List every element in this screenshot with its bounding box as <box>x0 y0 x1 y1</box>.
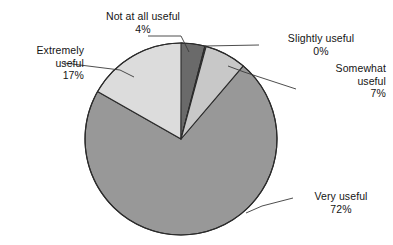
callout-not-at-all-useful: Not at all useful 4% <box>88 10 198 35</box>
callout-label-somewhat-useful-line1: Somewhat <box>300 62 386 75</box>
callout-label-not-at-all-useful: Not at all useful <box>88 10 198 23</box>
callout-very-useful: Very useful 72% <box>296 190 386 215</box>
leader-line-slightly-useful <box>205 45 259 48</box>
callout-label-extremely-useful-line2: useful <box>4 57 84 70</box>
callout-somewhat-useful: Somewhat useful 7% <box>300 62 386 100</box>
callout-percent-extremely-useful: 17% <box>4 69 84 82</box>
callout-percent-very-useful: 72% <box>296 203 386 216</box>
callout-slightly-useful: Slightly useful 0% <box>262 32 380 57</box>
callout-label-somewhat-useful-line2: useful <box>300 75 386 88</box>
callout-extremely-useful: Extremely useful 17% <box>4 44 84 82</box>
callout-percent-not-at-all-useful: 4% <box>88 23 198 36</box>
callout-label-slightly-useful: Slightly useful <box>262 32 380 45</box>
callout-percent-somewhat-useful: 7% <box>300 87 386 100</box>
callout-label-extremely-useful-line1: Extremely <box>4 44 84 57</box>
callout-percent-slightly-useful: 0% <box>262 45 380 58</box>
callout-label-very-useful: Very useful <box>296 190 386 203</box>
pie-chart-figure: Not at all useful 4% Slightly useful 0% … <box>0 0 393 245</box>
